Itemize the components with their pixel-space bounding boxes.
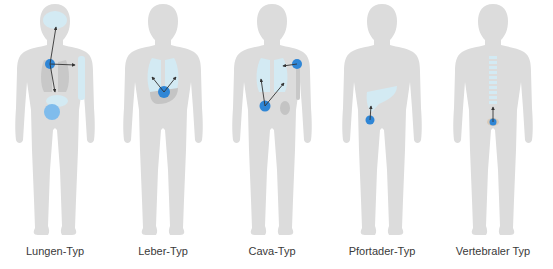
- humerus-bone: [78, 56, 85, 100]
- figure-pfortader-typ: Pfortader-Typ: [327, 0, 437, 269]
- adrenal-organ: [44, 104, 60, 120]
- figure-label: Cava-Typ: [217, 245, 327, 257]
- kidney-organ: [280, 101, 290, 115]
- figure-label: Lungen-Typ: [0, 245, 110, 257]
- figure-label: Pfortader-Typ: [327, 245, 437, 257]
- body-silhouette-pfortader: [327, 0, 437, 240]
- figure-lungen-typ: Lungen-Typ: [0, 0, 110, 269]
- body-silhouette-leber: [108, 0, 218, 240]
- body-silhouette-lungen: [0, 0, 110, 240]
- body-silhouette-vertebral: [438, 0, 548, 240]
- figure-cava-typ: Cava-Typ: [217, 0, 327, 269]
- brain-organ: [43, 11, 67, 29]
- figure-leber-typ: Leber-Typ: [108, 0, 218, 269]
- body-silhouette-cava: [217, 0, 327, 240]
- figure-label: Vertebraler Typ: [438, 245, 548, 257]
- figure-label: Leber-Typ: [108, 245, 218, 257]
- figure-vertebraler-typ: Vertebraler Typ: [438, 0, 548, 269]
